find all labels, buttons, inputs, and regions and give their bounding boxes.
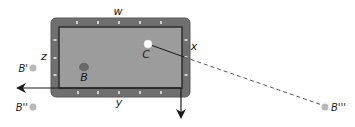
side-label-left: z [40, 50, 47, 63]
sight-marker-bottom [139, 91, 141, 94]
cue-ball-c [144, 40, 152, 48]
ball-label-b: B [80, 71, 88, 84]
ball-label-c: C [142, 48, 150, 61]
sight-marker-right [185, 74, 188, 76]
ghost-ball-b-double-prime [30, 104, 37, 111]
sight-marker-bottom [160, 91, 162, 94]
sight-marker-top [97, 21, 99, 24]
sight-marker-top [76, 21, 78, 24]
side-label-top: w [114, 5, 123, 18]
sight-marker-bottom [97, 91, 99, 94]
sight-marker-right [185, 39, 188, 41]
ghost-ball-b-triple-prime [322, 104, 329, 111]
sight-marker-left [54, 57, 57, 59]
sight-marker-top [139, 21, 141, 24]
ghost-label-b-prime: B' [18, 63, 28, 74]
sight-marker-top [160, 21, 162, 24]
sight-marker-left [54, 74, 57, 76]
ghost-label-b-triple-prime: B''' [331, 102, 346, 113]
sight-marker-bottom [118, 91, 120, 94]
side-label-bottom: y [115, 96, 123, 109]
side-label-right: x [190, 40, 198, 53]
table-felt [59, 27, 182, 88]
sight-marker-left [54, 39, 57, 41]
ghost-label-b-double-prime: B'' [16, 102, 28, 113]
sight-marker-bottom [77, 91, 79, 94]
reflection-dashed-line [184, 57, 322, 105]
ghost-ball-b-prime [30, 65, 37, 72]
sight-marker-top [118, 21, 120, 24]
billiard-reflection-diagram: w x y z B C B' B'' B''' [0, 0, 355, 127]
object-ball-b [80, 63, 89, 71]
